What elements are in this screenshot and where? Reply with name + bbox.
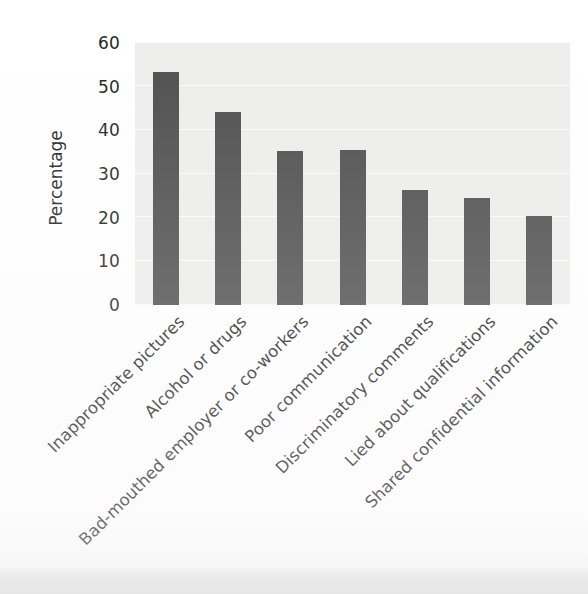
y-axis-tick-labels: 0102030405060 bbox=[70, 42, 128, 305]
y-axis-tick-label: 20 bbox=[98, 208, 120, 228]
y-axis-tick-label: 50 bbox=[98, 77, 120, 97]
y-axis-title: Percentage bbox=[46, 108, 70, 248]
y-axis-tick-label: 10 bbox=[98, 251, 120, 271]
y-axis-tick-label: 40 bbox=[98, 120, 120, 140]
y-axis-tick-label: 0 bbox=[109, 295, 120, 315]
page-edge-band bbox=[0, 568, 588, 594]
y-axis-tick-label: 60 bbox=[98, 33, 120, 53]
bar-chart-figure: 0102030405060 Percentage Inappropriate p… bbox=[0, 0, 588, 594]
y-axis-tick-label: 30 bbox=[98, 164, 120, 184]
bar bbox=[153, 72, 179, 305]
